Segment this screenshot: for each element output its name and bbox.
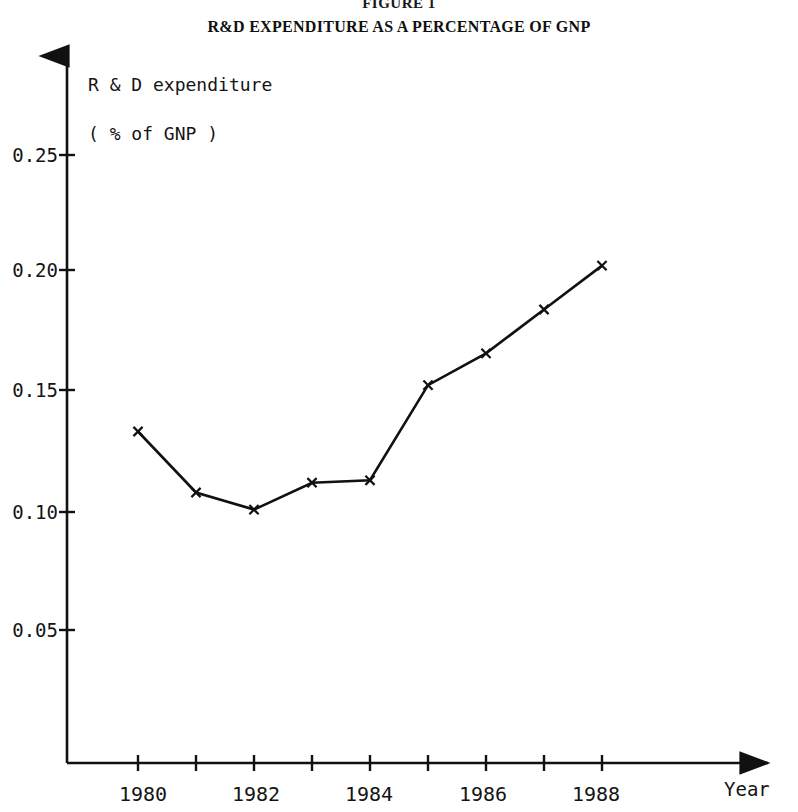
data-point-1985 (423, 381, 432, 390)
data-point-1987 (539, 305, 548, 314)
data-point-1980 (133, 427, 142, 436)
data-point-1986 (481, 349, 490, 358)
data-series-markers (133, 261, 606, 514)
figure-root: FIGURE 1 R&D EXPENDITURE AS A PERCENTAGE… (0, 0, 798, 812)
data-point-1988 (597, 261, 606, 270)
chart-canvas (0, 0, 798, 812)
data-series-line (138, 266, 602, 510)
